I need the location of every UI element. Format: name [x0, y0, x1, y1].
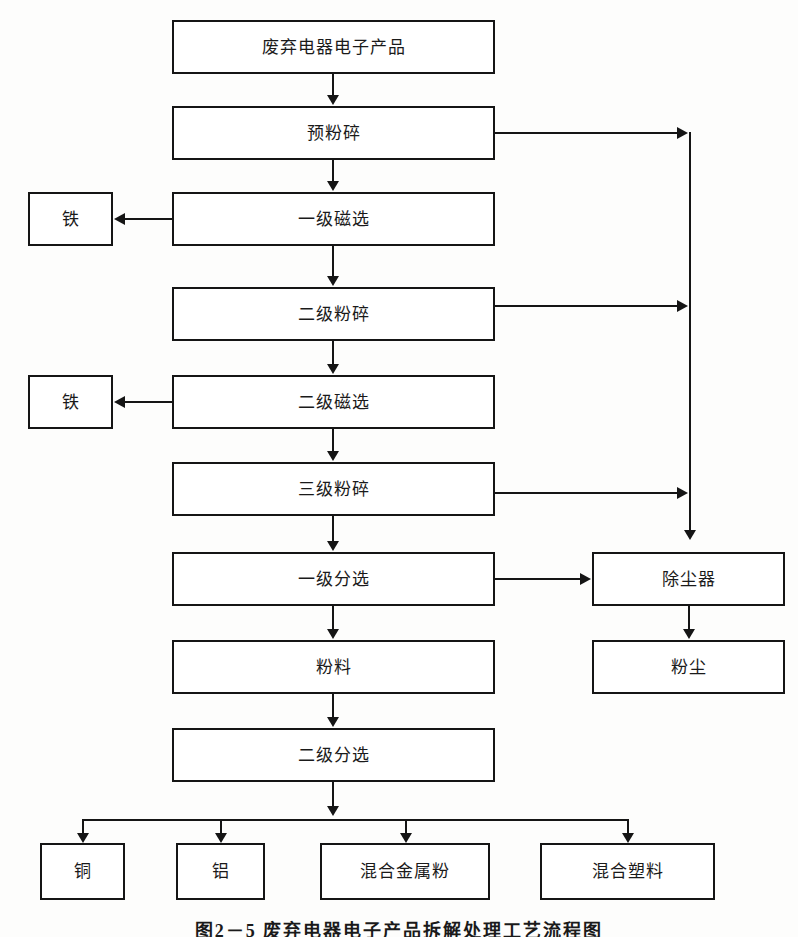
arrowhead-right — [677, 300, 688, 312]
arrowhead-down — [327, 181, 339, 191]
node-magnetic-separation-1: 一级磁选 — [172, 192, 495, 246]
node-sorting-2: 二级分选 — [172, 728, 495, 782]
node-label: 混合金属粉 — [360, 863, 450, 880]
connector-powder-to-sorting2 — [332, 694, 334, 718]
connector-dustcollector-to-dust — [688, 606, 690, 630]
arrowhead-down — [400, 833, 412, 843]
connector-input-to-precrush — [332, 74, 334, 96]
arrowhead-down — [327, 541, 339, 551]
arrowhead-down — [327, 95, 339, 105]
node-iron-2: 铁 — [28, 375, 113, 429]
connector-magnetic2-to-iron2 — [125, 401, 172, 403]
node-magnetic-separation-2: 二级磁选 — [172, 375, 495, 429]
node-label: 一级磁选 — [298, 211, 370, 228]
arrowhead-right — [580, 573, 591, 585]
node-mixed-plastic: 混合塑料 — [540, 843, 715, 900]
node-label: 铁 — [62, 211, 80, 228]
node-dust: 粉尘 — [592, 640, 785, 694]
node-label: 二级粉碎 — [298, 306, 370, 323]
arrowhead-down — [622, 833, 634, 843]
node-dust-collector: 除尘器 — [592, 552, 785, 606]
arrowhead-down — [327, 451, 339, 461]
connector-crush3-to-sorting1 — [332, 516, 334, 542]
connector-sorting2-stem — [332, 782, 334, 809]
node-label: 铝 — [212, 863, 230, 880]
node-pre-crush: 预粉碎 — [172, 106, 495, 160]
connector-precrush-to-dustbus — [495, 132, 677, 134]
connector-sorting1-to-dustcollector — [495, 578, 580, 580]
connector-magnetic2-to-crush3 — [332, 429, 334, 452]
node-label: 预粉碎 — [307, 125, 361, 142]
node-iron-1: 铁 — [28, 192, 113, 246]
connector-crush2-to-dustbus — [495, 305, 677, 307]
arrowhead-right — [677, 127, 688, 139]
arrowhead-down — [684, 530, 696, 540]
arrowhead-right — [677, 487, 688, 499]
arrowhead-down — [327, 629, 339, 639]
node-label: 二级分选 — [298, 747, 370, 764]
arrowhead-down — [77, 833, 89, 843]
node-label: 混合塑料 — [592, 863, 664, 880]
arrowhead-left — [114, 213, 125, 225]
node-crush-2: 二级粉碎 — [172, 287, 495, 341]
node-label: 一级分选 — [298, 571, 370, 588]
node-label: 二级磁选 — [298, 394, 370, 411]
node-label: 铜 — [74, 863, 92, 880]
arrowhead-down — [215, 833, 227, 843]
arrowhead-down — [327, 364, 339, 374]
connector-precrush-to-magnetic1 — [332, 160, 334, 182]
arrowhead-down — [327, 806, 339, 816]
node-label: 粉料 — [316, 659, 352, 676]
node-copper: 铜 — [40, 843, 125, 900]
node-label: 粉尘 — [671, 659, 707, 676]
connector-magnetic1-to-iron1 — [125, 218, 172, 220]
node-crush-3: 三级粉碎 — [172, 462, 495, 516]
flowchart-canvas: 废弃电器电子产品 预粉碎 一级磁选 二级粉碎 二级磁选 三级粉碎 一级分选 粉料… — [0, 0, 798, 937]
arrowhead-down — [327, 717, 339, 727]
node-label: 铁 — [62, 394, 80, 411]
dust-bus-vertical-line — [689, 132, 691, 532]
node-powder-material: 粉料 — [172, 640, 495, 694]
figure-caption: 图2－5 废弃电器电子产品拆解处理工艺流程图 — [0, 916, 798, 937]
node-sorting-1: 一级分选 — [172, 552, 495, 606]
node-label: 废弃电器电子产品 — [262, 39, 406, 56]
connector-crush3-to-dustbus — [495, 492, 677, 494]
arrowhead-left — [114, 396, 125, 408]
node-waste-electronics: 废弃电器电子产品 — [172, 20, 495, 74]
node-label: 三级粉碎 — [298, 481, 370, 498]
arrowhead-down — [327, 276, 339, 286]
connector-crush2-to-magnetic2 — [332, 341, 334, 365]
node-label: 除尘器 — [662, 571, 716, 588]
node-mixed-metal-powder: 混合金属粉 — [320, 843, 490, 900]
connector-sorting1-to-powder — [332, 606, 334, 630]
arrowhead-down — [683, 629, 695, 639]
node-aluminum: 铝 — [176, 843, 265, 900]
product-distribution-bar — [82, 819, 628, 821]
connector-magnetic1-to-crush2 — [332, 246, 334, 277]
